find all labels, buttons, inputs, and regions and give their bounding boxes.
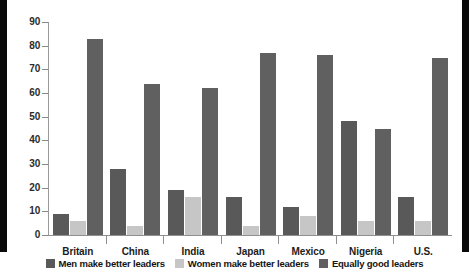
men-swatch (46, 259, 55, 268)
bar (260, 53, 276, 235)
legend-item-label: Men make better leaders (59, 258, 165, 269)
bar (398, 197, 414, 235)
y-axis-tick-label: 50 (29, 112, 40, 122)
legend-item-label: Equally good leaders (332, 258, 424, 269)
right-border-rule (462, 0, 469, 252)
bar-group (222, 22, 280, 235)
bar-group (107, 22, 165, 235)
x-axis-category-label: China (107, 246, 165, 257)
x-axis-category-label: Britain (49, 246, 107, 257)
y-axis-tick-label: 20 (29, 183, 40, 193)
bar (202, 88, 218, 235)
x-axis-category-label: U.S. (394, 246, 452, 257)
y-axis-tick-label: 60 (29, 88, 40, 98)
y-axis-tick-label: 80 (29, 41, 40, 51)
equal-swatch (319, 259, 328, 268)
chart-figure: 0102030405060708090 BritainChinaIndiaJap… (0, 0, 469, 276)
y-axis-tick-label: 0 (35, 230, 40, 240)
bar-groups (49, 22, 452, 235)
bar (127, 226, 143, 235)
bar (168, 190, 184, 235)
bar (317, 55, 333, 235)
x-axis-line (48, 235, 452, 236)
bar (283, 207, 299, 235)
legend-item: Women make better leaders (175, 258, 309, 269)
bar (110, 169, 126, 235)
legend-item: Equally good leaders (319, 258, 424, 269)
bar (87, 39, 103, 235)
y-axis-labels: 0102030405060708090 (16, 14, 40, 227)
bar (144, 84, 160, 235)
x-axis-category-label: Nigeria (337, 246, 395, 257)
bar (243, 226, 259, 235)
bar (415, 221, 431, 235)
plot-area: 0102030405060708090 BritainChinaIndiaJap… (16, 14, 453, 246)
bar-group (49, 22, 107, 235)
chart-legend: Men make better leadersWomen make better… (0, 258, 469, 269)
bar (70, 221, 86, 235)
y-axis-tick-label: 10 (29, 206, 40, 216)
bar (226, 197, 242, 235)
bar-group (337, 22, 395, 235)
bar (358, 221, 374, 235)
y-axis-tick-label: 40 (29, 135, 40, 145)
bar (341, 121, 357, 235)
y-axis-tick-label: 90 (29, 17, 40, 27)
bar (300, 216, 316, 235)
left-border-rule (0, 0, 7, 252)
bar-group (164, 22, 222, 235)
bar (375, 129, 391, 236)
bar-group (279, 22, 337, 235)
y-axis-tick-label: 30 (29, 159, 40, 169)
y-axis-tick-label: 70 (29, 64, 40, 74)
x-axis-category-labels: BritainChinaIndiaJapanMexicoNigeriaU.S. (49, 246, 452, 257)
legend-item: Men make better leaders (46, 258, 165, 269)
legend-item-label: Women make better leaders (188, 258, 309, 269)
bar-group (394, 22, 452, 235)
bar (432, 58, 448, 236)
x-axis-category-label: India (164, 246, 222, 257)
women-swatch (175, 259, 184, 268)
x-axis-category-label: Japan (222, 246, 280, 257)
x-axis-category-label: Mexico (279, 246, 337, 257)
bar (185, 197, 201, 235)
bar (53, 214, 69, 235)
